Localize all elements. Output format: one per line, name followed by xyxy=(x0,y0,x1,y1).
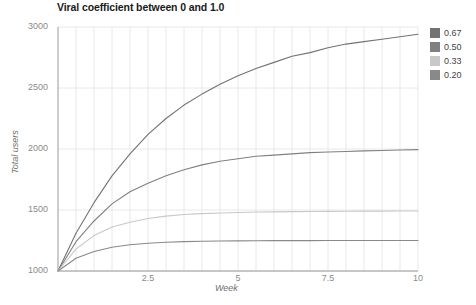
legend-label: 0.20 xyxy=(444,70,462,80)
y-tick-label: 1000 xyxy=(8,265,48,275)
legend-swatch-icon xyxy=(430,56,440,66)
chart-container: Viral coefficient between 0 and 1.0 1000… xyxy=(0,0,476,305)
legend-item[interactable]: 0.33 xyxy=(430,56,462,66)
legend-item[interactable]: 0.20 xyxy=(430,70,462,80)
y-axis-label: Total users xyxy=(10,122,20,182)
y-tick-label: 1500 xyxy=(8,204,48,214)
legend: 0.670.500.330.20 xyxy=(430,28,462,80)
x-tick-label: 5 xyxy=(218,273,258,283)
legend-label: 0.50 xyxy=(444,42,462,52)
plot-area xyxy=(0,0,476,305)
legend-item[interactable]: 0.50 xyxy=(430,42,462,52)
x-tick-label: 7.5 xyxy=(308,273,348,283)
y-tick-label: 3000 xyxy=(8,21,48,31)
y-tick-label: 2500 xyxy=(8,82,48,92)
legend-item[interactable]: 0.67 xyxy=(430,28,462,38)
x-tick-label: 10 xyxy=(398,273,438,283)
x-tick-label: 2.5 xyxy=(128,273,168,283)
legend-swatch-icon xyxy=(430,70,440,80)
legend-swatch-icon xyxy=(430,28,440,38)
gridlines xyxy=(58,27,418,271)
legend-label: 0.67 xyxy=(444,28,462,38)
legend-swatch-icon xyxy=(430,42,440,52)
x-axis-label: Week xyxy=(215,283,238,293)
legend-label: 0.33 xyxy=(444,56,462,66)
